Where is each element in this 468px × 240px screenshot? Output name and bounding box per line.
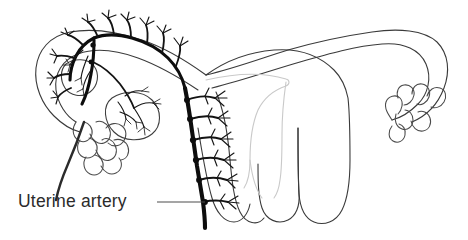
ovarian-artery-to-ovary	[93, 62, 134, 108]
label-uterine-artery: Uterine artery	[18, 191, 127, 211]
tubal-artery-arcade	[94, 35, 185, 88]
right-fimbriae	[385, 84, 445, 142]
anatomy-figure: Uterine artery	[0, 0, 468, 240]
uterine-cavity-right-limb	[274, 82, 286, 198]
left-descending-stem	[56, 122, 84, 200]
uterine-cavity-outline	[206, 74, 289, 188]
uterine-cavity-apex	[250, 160, 262, 198]
left-fallopian-tube-inner	[56, 51, 198, 122]
cervix-outline	[258, 128, 299, 222]
left-ovary-outline	[105, 92, 159, 140]
uterus-vasculature-diagram: Uterine artery	[0, 0, 468, 240]
right-fallopian-tube-outline	[206, 30, 448, 122]
label-group-uterine-artery: Uterine artery	[18, 191, 205, 211]
